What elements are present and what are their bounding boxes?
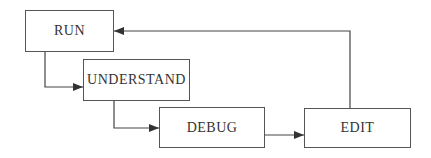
node-edit-label: EDIT [341, 120, 375, 136]
arrow-understand-to-debug [114, 101, 159, 128]
node-understand-label: UNDERSTAND [87, 72, 186, 88]
node-edit: EDIT [304, 108, 411, 148]
node-understand: UNDERSTAND [83, 59, 190, 101]
node-debug-label: DEBUG [187, 120, 238, 136]
node-run: RUN [25, 10, 114, 52]
arrow-run-to-understand [45, 52, 83, 87]
node-debug: DEBUG [159, 107, 265, 148]
node-run-label: RUN [54, 23, 85, 39]
